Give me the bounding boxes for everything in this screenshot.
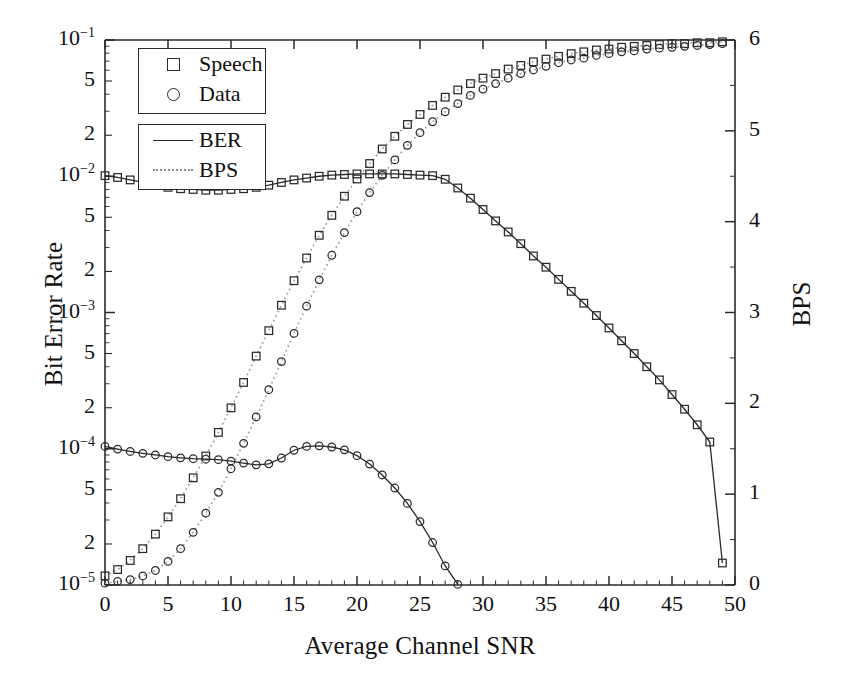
y-tick-label-right: 6 — [749, 25, 799, 51]
legend-item-speech: Speech — [139, 49, 265, 79]
x-tick-label: 5 — [138, 591, 198, 617]
x-tick-label: 40 — [579, 591, 639, 617]
y-tick-label-left: 2 — [29, 256, 95, 282]
legend-item-ber: BER — [139, 125, 265, 155]
data-point-circle — [152, 567, 160, 575]
x-tick-label: 35 — [516, 591, 576, 617]
axes-layer — [105, 40, 735, 585]
data-point-circle — [265, 386, 273, 394]
legend-label-ber: BER — [195, 127, 242, 153]
y-tick-label-right: 0 — [749, 570, 799, 596]
data-point-square — [467, 80, 475, 88]
y-tick-label-left: 2 — [29, 529, 95, 555]
y-tick-label-right: 2 — [749, 388, 799, 414]
y-tick-label-right: 1 — [749, 479, 799, 505]
data-point-square — [114, 566, 122, 574]
legend-item-data: Data — [139, 79, 265, 109]
data-point-circle — [215, 489, 223, 497]
series-speech-bps — [101, 38, 726, 580]
data-point-circle — [429, 118, 437, 126]
data-point-circle — [630, 47, 638, 55]
series-data-bps — [101, 40, 726, 587]
series-layer — [101, 38, 726, 588]
data-point-circle — [240, 440, 248, 448]
y-tick-label-left: 5 — [29, 66, 95, 92]
y-tick-label-left: 5 — [29, 339, 95, 365]
y-tick-label-left: 10−4 — [29, 434, 95, 460]
y-tick-label-right: 4 — [749, 207, 799, 233]
legend-label-bps: BPS — [195, 157, 238, 183]
square-marker-icon — [151, 58, 195, 71]
series-line — [105, 174, 722, 563]
data-point-square — [240, 379, 248, 387]
data-point-circle — [542, 63, 550, 71]
data-point-square — [530, 58, 538, 66]
data-point-square — [265, 327, 273, 335]
legend-markers: Speech Data — [138, 48, 266, 114]
chart-figure: Bit Error Rate BPS Average Channel SNR 0… — [0, 0, 852, 678]
y-tick-label-left: 2 — [29, 120, 95, 146]
series-speech-ber — [101, 170, 726, 567]
data-point-circle — [504, 74, 512, 82]
solid-line-icon — [151, 140, 195, 141]
data-point-circle — [315, 276, 323, 284]
y-tick-label-left: 10−2 — [29, 161, 95, 187]
dotted-line-icon — [151, 169, 195, 171]
x-tick-label: 10 — [201, 591, 261, 617]
data-point-circle — [164, 558, 172, 566]
data-point-square — [492, 70, 500, 78]
data-point-circle — [202, 509, 210, 517]
x-tick-label: 45 — [642, 591, 702, 617]
plot-canvas — [0, 0, 852, 678]
x-tick-label: 15 — [264, 591, 324, 617]
y-tick-label-left: 10−3 — [29, 298, 95, 324]
legend-item-bps: BPS — [139, 155, 265, 185]
y-tick-label-right: 5 — [749, 116, 799, 142]
data-point-square — [542, 55, 550, 63]
x-tick-label: 25 — [390, 591, 450, 617]
x-tick-label: 30 — [453, 591, 513, 617]
data-point-circle — [366, 189, 374, 197]
data-point-circle — [341, 229, 349, 237]
legend-label-speech: Speech — [195, 51, 263, 77]
data-point-circle — [353, 208, 361, 216]
data-point-circle — [290, 330, 298, 338]
data-point-circle — [492, 80, 500, 88]
legend-label-data: Data — [195, 81, 241, 107]
x-axis-title: Average Channel SNR — [200, 632, 640, 660]
y-tick-label-left: 10−1 — [29, 25, 95, 51]
data-point-circle — [416, 129, 424, 137]
y-tick-label-left: 2 — [29, 393, 95, 419]
series-line — [105, 446, 458, 585]
data-point-square — [278, 301, 286, 309]
y-tick-label-right: 3 — [749, 298, 799, 324]
data-point-square — [479, 74, 487, 82]
series-line — [105, 42, 722, 576]
legend-linestyles: BER BPS — [138, 124, 266, 190]
data-point-circle — [278, 358, 286, 366]
x-tick-label: 20 — [327, 591, 387, 617]
data-point-square — [227, 404, 235, 412]
data-point-circle — [252, 413, 260, 421]
circle-marker-icon — [151, 88, 195, 101]
y-tick-label-left: 5 — [29, 475, 95, 501]
y-tick-label-left: 10−5 — [29, 570, 95, 596]
y-tick-label-left: 5 — [29, 202, 95, 228]
data-point-square — [189, 474, 197, 482]
data-point-circle — [303, 302, 311, 310]
